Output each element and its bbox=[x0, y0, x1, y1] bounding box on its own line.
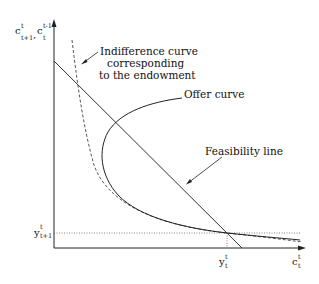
indifference-label-line2: corresponding bbox=[107, 57, 184, 69]
offer-curve-label: Offer curve bbox=[184, 88, 244, 100]
endowment-guides bbox=[54, 233, 300, 248]
feasibility-pointer bbox=[188, 157, 222, 183]
indifference-arrowhead-icon bbox=[81, 59, 88, 65]
x-axis-arrow-icon bbox=[298, 246, 306, 251]
y-endowment-label: y t t+1 bbox=[33, 223, 52, 240]
feasibility-arrowhead-icon bbox=[186, 179, 192, 185]
svg-text:t+1: t+1 bbox=[21, 34, 33, 42]
x-axis-label: c t t bbox=[292, 253, 301, 270]
svg-text:t: t bbox=[225, 262, 228, 270]
svg-text:t+1: t+1 bbox=[40, 232, 52, 240]
offer-curve-diagram: Indifference curve corresponding to the … bbox=[0, 0, 319, 284]
y-axis-arrow-icon bbox=[52, 19, 57, 27]
svg-text:t: t bbox=[43, 34, 46, 42]
x-endowment-label: y t t bbox=[218, 253, 228, 270]
svg-text:t-1: t-1 bbox=[43, 22, 52, 30]
indifference-label-line3: to the endowment bbox=[99, 69, 196, 81]
svg-text:t: t bbox=[40, 223, 43, 231]
feasibility-line-label: Feasibility line bbox=[205, 145, 283, 157]
svg-text:y: y bbox=[33, 227, 40, 238]
svg-text:t: t bbox=[298, 262, 301, 270]
offer-curve bbox=[102, 98, 300, 240]
indifference-label-line1: Indifference curve bbox=[100, 45, 198, 57]
svg-text:,: , bbox=[33, 29, 36, 40]
svg-text:t: t bbox=[298, 253, 301, 261]
svg-text:t: t bbox=[225, 253, 228, 261]
y-axis-label: c t t+1 , c t-1 t bbox=[15, 22, 52, 42]
svg-text:t: t bbox=[21, 22, 24, 30]
svg-text:y: y bbox=[218, 256, 225, 267]
